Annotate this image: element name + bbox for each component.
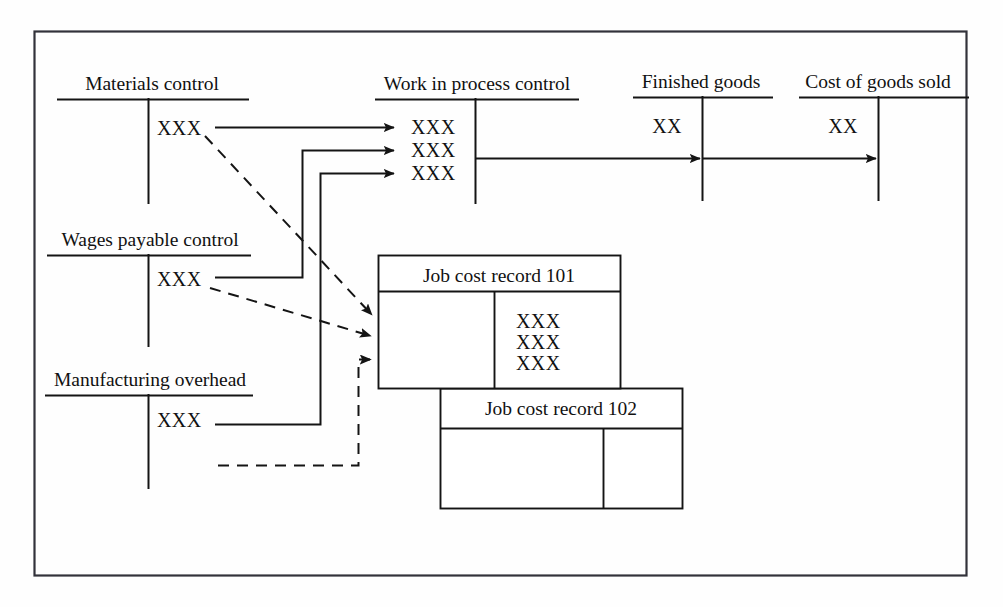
t-account-amount-materials-control-0: XXX [157, 117, 202, 139]
job-costing-flow-diagram: Materials control XXX Wages payable cont… [0, 0, 1003, 607]
t-account-amount-work-in-process-control-0: XXX [411, 116, 456, 138]
t-account-amount-finished-goods-0: XX [652, 115, 682, 137]
t-account-materials-control: Materials control XXX [58, 73, 248, 203]
t-account-finished-goods: Finished goods XX [634, 71, 772, 200]
t-account-label-finished-goods: Finished goods [642, 71, 761, 92]
t-account-wages-payable-control: Wages payable control XXX [48, 229, 250, 346]
job-101-amount-2: XXX [516, 352, 561, 374]
t-account-amount-cost-of-goods-sold-0: XX [828, 115, 858, 137]
t-account-label-materials-control: Materials control [85, 73, 219, 94]
job-cost-record-102: Job cost record 102 [441, 389, 683, 509]
job-101-amount-0: XXX [516, 310, 561, 332]
flow-dashed-wages-to-job101 [210, 288, 371, 336]
t-account-amount-work-in-process-control-1: XXX [411, 139, 456, 161]
t-account-work-in-process-control: Work in process control XXX XXX XXX [376, 73, 578, 203]
t-account-cost-of-goods-sold: Cost of goods sold XX [800, 71, 968, 200]
job-101-title: Job cost record 101 [423, 265, 575, 286]
job-101-amount-1: XXX [516, 331, 561, 353]
t-account-label-manufacturing-overhead: Manufacturing overhead [54, 369, 246, 390]
flow-dashed-materials-to-job101 [205, 136, 372, 315]
t-account-amount-wages-payable-control-0: XXX [157, 268, 202, 290]
t-account-amount-manufacturing-overhead-0: XXX [157, 409, 202, 431]
flow-wages-to-wip [215, 151, 394, 278]
t-account-manufacturing-overhead: Manufacturing overhead XXX [46, 369, 252, 488]
t-account-label-cost-of-goods-sold: Cost of goods sold [805, 71, 951, 92]
t-account-label-work-in-process-control: Work in process control [384, 73, 571, 94]
t-account-label-wages-payable-control: Wages payable control [61, 229, 239, 250]
job-102-title: Job cost record 102 [485, 398, 637, 419]
job-cost-record-101: Job cost record 101 XXX XXX XXX [379, 256, 621, 389]
t-account-amount-work-in-process-control-2: XXX [411, 162, 456, 184]
diagram-canvas: Materials control XXX Wages payable cont… [0, 0, 1003, 607]
